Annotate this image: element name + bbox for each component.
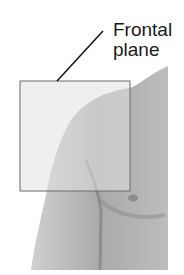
nipple xyxy=(128,195,138,202)
frontal-plane-label: Frontal plane xyxy=(113,20,172,60)
leader-line xyxy=(57,31,103,81)
label-line-2: plane xyxy=(113,40,172,60)
label-line-1: Frontal xyxy=(113,20,172,40)
frontal-plane-box xyxy=(20,81,130,191)
